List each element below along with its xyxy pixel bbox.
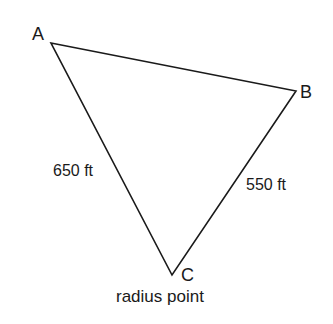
vertex-label-c: C [181,265,194,285]
vertex-label-b: B [300,82,312,102]
triangle-abc [51,43,296,275]
edge-label-bc: 550 ft [246,176,287,193]
radius-point-caption: radius point [116,287,204,306]
triangle-diagram: A B C 650 ft 550 ft radius point [0,0,333,324]
edge-label-ac: 650 ft [53,162,94,179]
vertex-label-a: A [32,24,44,44]
